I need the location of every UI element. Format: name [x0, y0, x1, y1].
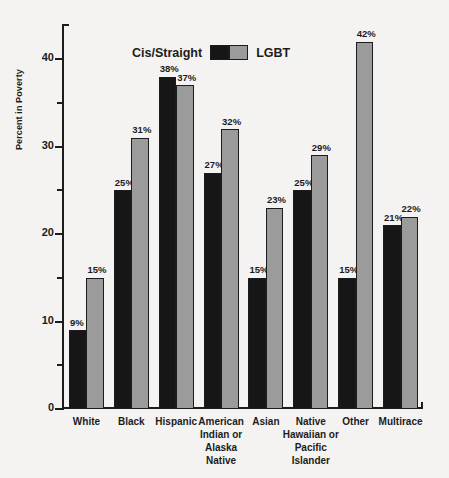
- x-category-label-line: Hawaiian or: [278, 428, 343, 441]
- bar-value-label: 15%: [87, 265, 106, 275]
- bar-cis-straight: [159, 77, 177, 410]
- y-tick-minor-5: [57, 364, 64, 366]
- legend-swatch-cis-straight: [210, 45, 229, 60]
- y-tick-major-40: [55, 58, 64, 60]
- x-axis-category-labels: WhiteBlackHispanicAmericanIndian orAlask…: [64, 415, 423, 473]
- bar-value-label: 29%: [312, 143, 331, 153]
- bar-cis-straight: [114, 190, 132, 409]
- y-tick-label-20: 20: [14, 226, 54, 238]
- bar-lgbt: [131, 138, 149, 409]
- poverty-bar-chart: Percent in Poverty 010203040 Cis/Straigh…: [0, 0, 449, 478]
- x-category-label-line: Alaska Native: [189, 441, 254, 467]
- y-axis-tick-labels: 010203040: [10, 24, 54, 409]
- bar-value-label: 38%: [160, 64, 179, 74]
- x-category-label-multirace: Multirace: [368, 415, 433, 428]
- bar-lgbt: [86, 278, 104, 409]
- legend-label-cis-straight: Cis/Straight: [132, 46, 202, 60]
- y-tick-label-40: 40: [14, 51, 54, 63]
- legend-swatch-lgbt: [229, 45, 248, 60]
- bar-lgbt: [356, 42, 374, 410]
- bar-lgbt: [221, 129, 239, 409]
- legend-label-lgbt: LGBT: [256, 46, 290, 60]
- legend: Cis/Straight LGBT: [132, 45, 290, 60]
- bar-lgbt: [311, 155, 329, 409]
- bar-cis-straight: [204, 173, 222, 409]
- y-tick-label-30: 30: [14, 139, 54, 151]
- bars-layer: 9%15%25%31%38%37%27%32%15%23%25%29%15%42…: [64, 24, 423, 409]
- bar-value-label: 32%: [222, 117, 241, 127]
- bar-lgbt: [401, 217, 419, 410]
- bar-cis-straight: [383, 225, 401, 409]
- bar-value-label: 31%: [132, 125, 151, 135]
- bar-value-label: 23%: [267, 195, 286, 205]
- bar-value-label: 22%: [402, 204, 421, 214]
- y-tick-label-0: 0: [14, 401, 54, 413]
- bar-cis-straight: [69, 330, 87, 409]
- bar-cis-straight: [293, 190, 311, 409]
- bar-value-label: 42%: [357, 29, 376, 39]
- y-tick-label-10: 10: [14, 314, 54, 326]
- bar-value-label: 9%: [70, 318, 84, 328]
- y-tick-minor-15: [57, 277, 64, 279]
- bar-cis-straight: [338, 278, 356, 409]
- y-tick-minor-35: [57, 102, 64, 104]
- bar-cis-straight: [248, 278, 266, 409]
- y-tick-minor-25: [57, 189, 64, 191]
- x-category-label-line: Multirace: [368, 415, 433, 428]
- bar-lgbt: [266, 208, 284, 409]
- bar-value-label: 37%: [177, 73, 196, 83]
- bar-lgbt: [176, 85, 194, 409]
- y-tick-major-0: [55, 408, 64, 410]
- y-tick-major-10: [55, 321, 64, 323]
- y-tick-major-30: [55, 146, 64, 148]
- x-category-label-line: Indian or: [189, 428, 254, 441]
- y-tick-major-20: [55, 233, 64, 235]
- x-category-label-line: Pacific Islander: [278, 441, 343, 467]
